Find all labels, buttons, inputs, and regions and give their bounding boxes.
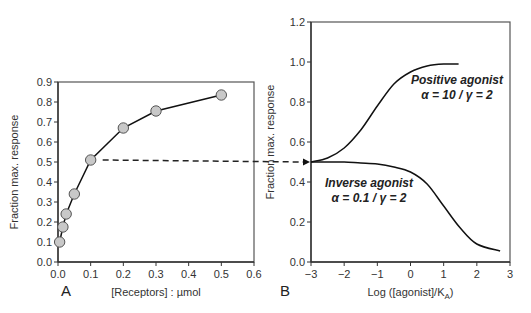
y-tick-label: 0.0 bbox=[290, 256, 305, 268]
y-tick-label: 0.8 bbox=[290, 96, 305, 108]
annotation-inverse-agonist: Inverse agonist bbox=[325, 176, 414, 190]
panel-a-chart: 0.00.10.20.30.40.50.60.70.80.90.00.10.20… bbox=[8, 76, 262, 299]
x-tick-label: 0.1 bbox=[83, 268, 98, 280]
data-point-marker bbox=[69, 189, 79, 199]
x-tick-label: 0.6 bbox=[246, 268, 261, 280]
x-tick-label: −3 bbox=[305, 268, 318, 280]
annotation-positive-params: α = 10 / γ = 2 bbox=[421, 88, 493, 102]
x-tick-label: 3 bbox=[507, 268, 513, 280]
x-axis-title: [Receptors] : µmol bbox=[111, 286, 200, 298]
figure: 0.00.10.20.30.40.50.60.70.80.90.00.10.20… bbox=[0, 0, 531, 313]
y-tick-label: 0.6 bbox=[37, 136, 52, 148]
data-point-marker bbox=[118, 123, 128, 133]
annotation-inverse-params: α = 0.1 / γ = 2 bbox=[332, 191, 407, 205]
y-axis-title: Fraction max. response bbox=[264, 85, 276, 200]
data-point-marker bbox=[216, 90, 226, 100]
y-tick-label: 1.0 bbox=[290, 56, 305, 68]
annotation-positive-agonist: Positive agonist bbox=[411, 73, 504, 87]
y-tick-label: 0.2 bbox=[290, 216, 305, 228]
y-tick-label: 0.4 bbox=[37, 176, 52, 188]
y-tick-label: 0.5 bbox=[37, 156, 52, 168]
x-tick-label: 2 bbox=[474, 268, 480, 280]
plot-frame bbox=[311, 22, 510, 262]
x-tick-label: 0.0 bbox=[50, 268, 65, 280]
x-tick-label: −1 bbox=[371, 268, 384, 280]
y-tick-label: 0.1 bbox=[37, 236, 52, 248]
x-axis-title: Log ([agonist]/KA) bbox=[367, 286, 453, 301]
y-tick-label: 1.2 bbox=[290, 16, 305, 28]
y-tick-label: 0.6 bbox=[290, 136, 305, 148]
panel-label: B bbox=[280, 282, 290, 299]
arrowhead-icon bbox=[303, 159, 310, 166]
data-point-marker bbox=[58, 222, 68, 232]
y-tick-label: 0.4 bbox=[290, 176, 305, 188]
x-tick-label: 0.4 bbox=[181, 268, 196, 280]
panel-b-chart: 0.00.20.40.60.81.01.2−3−2−10123Fraction … bbox=[264, 16, 513, 301]
x-tick-label: 0.5 bbox=[214, 268, 229, 280]
panel-label: A bbox=[61, 282, 71, 299]
y-tick-label: 0.8 bbox=[37, 96, 52, 108]
y-tick-label: 0.7 bbox=[37, 116, 52, 128]
y-tick-label: 0.0 bbox=[37, 256, 52, 268]
y-tick-label: 0.9 bbox=[37, 76, 52, 88]
x-tick-label: 0.3 bbox=[148, 268, 163, 280]
series-line-response-vs-receptor-concentration bbox=[60, 95, 222, 242]
data-point-marker bbox=[54, 237, 64, 247]
data-point-marker bbox=[61, 209, 71, 219]
y-tick-label: 0.2 bbox=[37, 216, 52, 228]
dashed-connector-arrow bbox=[103, 159, 310, 166]
y-tick-label: 0.3 bbox=[37, 196, 52, 208]
x-tick-label: 1 bbox=[441, 268, 447, 280]
y-axis-title: Fraction max. response bbox=[8, 115, 20, 230]
data-point-marker bbox=[85, 155, 95, 165]
data-point-marker bbox=[151, 106, 161, 116]
x-tick-label: 0 bbox=[407, 268, 413, 280]
x-tick-label: 0.2 bbox=[116, 268, 131, 280]
x-tick-label: −2 bbox=[338, 268, 351, 280]
